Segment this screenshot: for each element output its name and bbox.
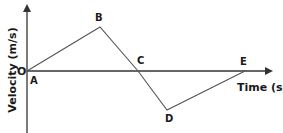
point-label-d: D bbox=[165, 113, 173, 124]
y-axis-label: Velocity (m/s) bbox=[6, 27, 19, 112]
point-label-e: E bbox=[240, 56, 247, 67]
x-axis-label: Time (s) bbox=[237, 81, 283, 94]
velocity-time-graph: O A B C D E Time (s) Velocity (m/s) bbox=[0, 0, 283, 133]
point-label-b: B bbox=[95, 12, 103, 23]
point-label-c: C bbox=[137, 55, 144, 66]
velocity-line bbox=[27, 27, 245, 110]
point-label-a: A bbox=[30, 75, 38, 86]
